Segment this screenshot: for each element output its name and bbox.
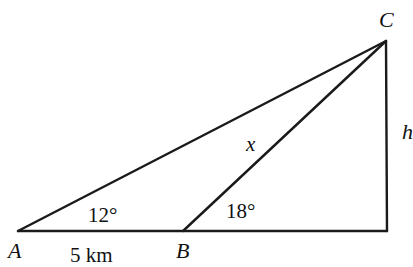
angle-label-a: 12°	[88, 203, 117, 227]
side-label-h: h	[402, 119, 413, 144]
side-label-x: x	[245, 132, 256, 156]
vertex-label-a: A	[6, 238, 22, 263]
angle-label-b: 18°	[226, 199, 255, 223]
height-line-h	[386, 41, 387, 231]
line-ac	[18, 41, 386, 231]
line-bc-x	[183, 41, 386, 231]
triangle-diagram: A B C 5 km x h 12° 18°	[0, 0, 413, 267]
vertex-label-b: B	[176, 238, 189, 263]
vertex-label-c: C	[379, 7, 394, 32]
side-label-ab: 5 km	[70, 243, 113, 267]
